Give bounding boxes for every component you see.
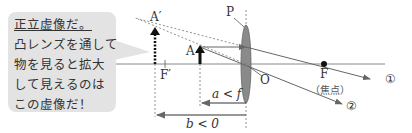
label-virtual-image: A′ xyxy=(150,10,161,24)
label-focus-note: （焦点） xyxy=(310,82,350,97)
label-ray-2: ② xyxy=(346,99,357,113)
label-ray-1: ① xyxy=(385,72,396,86)
bubble-tail xyxy=(114,40,150,60)
bubble-line-1: 正立虚像だ。 xyxy=(14,15,110,35)
bubble-line-4: して見えるのは xyxy=(14,75,110,95)
p-pointer xyxy=(234,18,244,27)
label-object: A xyxy=(186,44,195,58)
speech-bubble: 正立虚像だ。 凸レンズを通して 物を見ると拡大 して見えるのは この虚像だ！ xyxy=(8,12,116,112)
bubble-line-5: この虚像だ！ xyxy=(14,95,110,115)
label-o: O xyxy=(260,73,270,87)
label-a-condition: a < f xyxy=(212,87,241,101)
label-f-prime: F′ xyxy=(160,68,171,82)
bubble-line-3: 物を見ると拡大 xyxy=(14,55,110,75)
label-f: F xyxy=(320,67,328,81)
label-b-condition: b < 0 xyxy=(186,117,219,131)
bubble-line-2: 凸レンズを通して xyxy=(14,35,110,55)
label-p: P xyxy=(226,5,234,19)
